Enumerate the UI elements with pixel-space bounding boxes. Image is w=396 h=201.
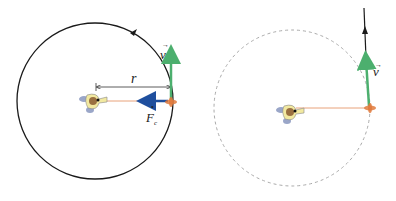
person-icon <box>79 94 107 113</box>
circular-motion-diagram: r Fc • v → v <box>0 0 396 201</box>
tangent-direction-arrow <box>362 26 368 34</box>
velocity-vector-arrow: → <box>162 41 169 49</box>
radius-label: r <box>131 71 137 86</box>
velocity-vector-arrow: → <box>375 61 382 69</box>
object-icon <box>165 97 177 107</box>
force-vector-dot: • <box>151 103 154 112</box>
left-panel: r Fc • v → <box>17 23 177 179</box>
force-label: Fc <box>145 110 158 127</box>
force-subscript: c <box>154 119 158 127</box>
velocity-label: v <box>160 47 166 62</box>
right-panel: v → <box>214 8 382 186</box>
object-icon <box>364 103 376 113</box>
velocity-arrow <box>366 60 369 106</box>
